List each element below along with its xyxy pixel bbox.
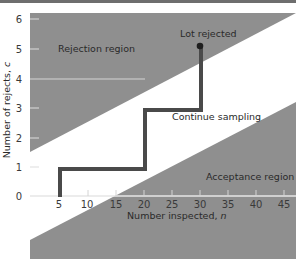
x-tick-label: 35 (222, 199, 235, 210)
acceptance-region-label: Acceptance region (206, 171, 294, 182)
x-tick-label: 10 (81, 199, 94, 210)
x-tick-label: 15 (110, 199, 123, 210)
top-border (0, 0, 296, 3)
x-tick-label: 25 (166, 199, 179, 210)
x-axis-label: Number inspected, n (127, 210, 227, 221)
x-tick-label: 30 (194, 199, 207, 210)
continue-sampling-label: Continue sampling (172, 111, 261, 122)
lot-rejected-label: Lot rejected (180, 28, 237, 39)
y-tick-label: 6 (16, 14, 22, 25)
y-tick-label: 5 (16, 44, 22, 55)
y-tick-labels: 0 1 2 3 4 5 6 (16, 14, 22, 202)
x-tick-label: 20 (138, 199, 151, 210)
x-tick-label: 40 (250, 199, 263, 210)
y-tick-label: 2 (16, 133, 22, 144)
x-tick-label: 5 (56, 199, 62, 210)
x-tick-labels: 5 10 15 20 25 30 35 40 45 (56, 199, 291, 210)
y-tick-label: 4 (16, 74, 22, 85)
y-tick-label: 1 (16, 162, 22, 173)
rejection-region-label: Rejection region (58, 43, 135, 54)
y-tick-label: 3 (16, 103, 22, 114)
lot-rejected-marker (197, 43, 204, 50)
y-tick-label: 0 (16, 191, 22, 202)
y-axis-label: Number of rejects, c (1, 61, 12, 158)
chart: 0 1 2 3 4 5 6 5 10 15 20 25 30 35 40 45 … (0, 0, 302, 269)
x-tick-label: 45 (278, 199, 291, 210)
